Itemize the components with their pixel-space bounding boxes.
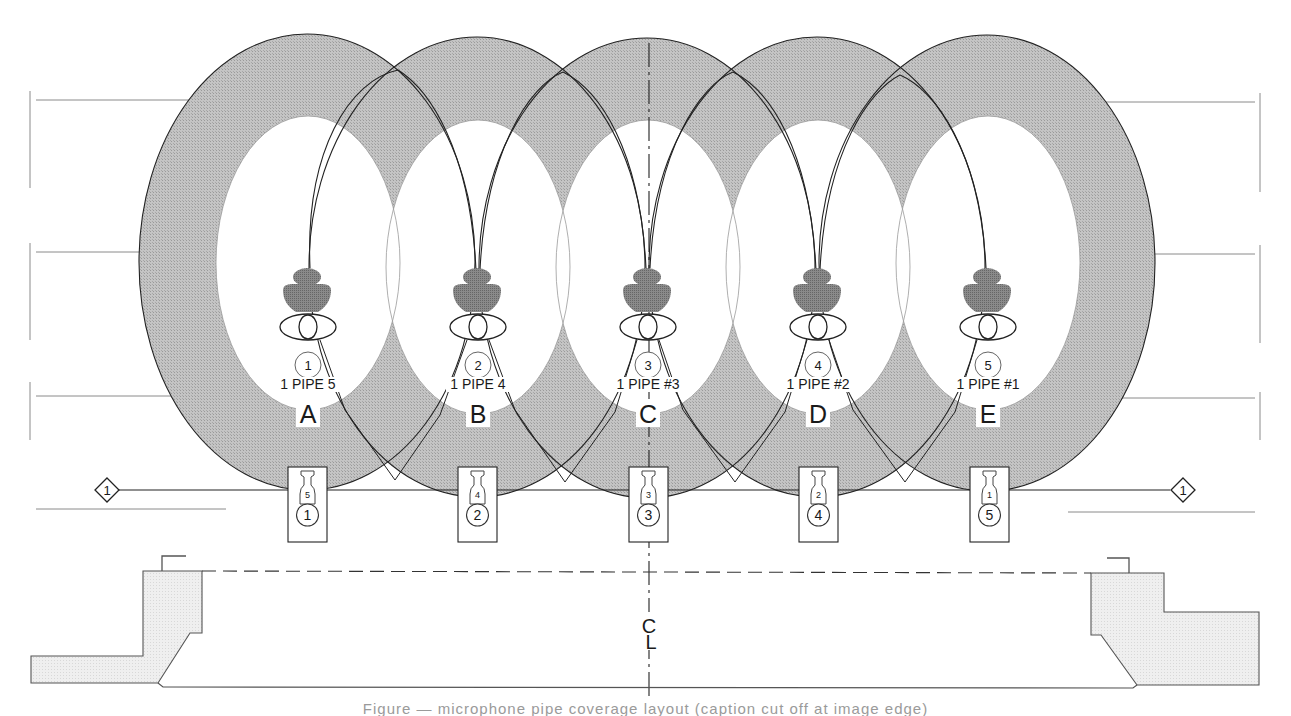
box-small-number: 3 [646, 490, 651, 500]
box-small-number: 2 [816, 490, 821, 500]
box-small-number: 1 [987, 490, 992, 500]
figure-caption: Figure — microphone pipe coverage layout… [0, 700, 1291, 716]
position-box-1: 5 1 [288, 467, 327, 542]
zone-letter: A [300, 400, 317, 428]
line-marker-right: 1 [1171, 478, 1195, 502]
box-small-number: 5 [305, 490, 310, 500]
zone-number: 4 [814, 358, 821, 373]
pipe-label: 1 PIPE 5 [280, 376, 335, 392]
position-box-4: 2 4 [799, 467, 838, 542]
zone-number: 2 [474, 358, 481, 373]
position-box-3: 3 3 [629, 467, 668, 542]
position-box-2: 4 2 [458, 467, 497, 542]
zone-letter: E [980, 400, 997, 428]
pipe-label: 1 PIPE 4 [450, 376, 505, 392]
centerline-l: L [645, 631, 656, 653]
zone-letter: B [470, 400, 487, 428]
line-marker-left: 1 [95, 478, 119, 502]
stage-right-wall [1091, 573, 1259, 685]
box-big-number: 2 [474, 507, 482, 523]
zone-number: 1 [304, 358, 311, 373]
line-marker-left-label: 1 [103, 483, 110, 498]
stage-left-wall [31, 571, 202, 683]
zone-number: 5 [984, 358, 991, 373]
box-big-number: 1 [304, 507, 312, 523]
box-small-number: 4 [475, 490, 480, 500]
box-big-number: 4 [815, 507, 823, 523]
pipe-label: 1 PIPE #3 [616, 376, 679, 392]
box-big-number: 3 [645, 507, 653, 523]
pipe-label: 1 PIPE #1 [956, 376, 1019, 392]
box-big-number: 5 [986, 507, 994, 523]
zone-number: 3 [644, 358, 651, 373]
zone-letter: C [639, 400, 657, 428]
pipe-label: 1 PIPE #2 [786, 376, 849, 392]
position-box-5: 1 5 [970, 467, 1009, 542]
zone-letter: D [809, 400, 827, 428]
line-marker-right-label: 1 [1179, 483, 1186, 498]
coverage-diagram: 1 1 1 1 PIPE 5 A 2 [0, 0, 1291, 716]
centerline-symbol: C L [638, 612, 660, 653]
